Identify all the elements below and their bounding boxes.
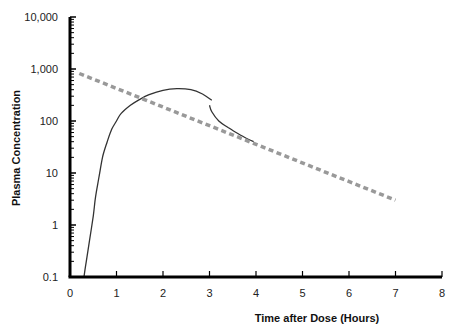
x-tick-label: 8 [439,287,445,299]
plot-area [79,74,395,278]
dashed-elimination-line [79,74,395,201]
y-tick-label: 10 [46,167,58,179]
x-tick-label: 5 [299,287,305,299]
y-tick-label: 1 [52,219,58,231]
x-tick-label: 2 [160,287,166,299]
x-tick-label: 7 [392,287,398,299]
x-tick-label: 3 [206,287,212,299]
concentration-curve [84,89,212,277]
x-tick-label: 0 [67,287,73,299]
pk-chart: 0.11101001,00010,000012345678 Plasma Con… [0,0,454,332]
x-tick-label: 1 [113,287,119,299]
y-tick-label: 0.1 [43,271,58,283]
x-tick-label: 6 [346,287,352,299]
y-tick-label: 1,000 [30,63,58,75]
x-tick-label: 4 [253,287,259,299]
x-axis-title: Time after Dose (Hours) [255,312,380,324]
y-tick-label: 100 [40,115,58,127]
y-axis-title: Plasma Concentration [10,90,22,206]
y-tick-label: 10,000 [24,11,58,23]
